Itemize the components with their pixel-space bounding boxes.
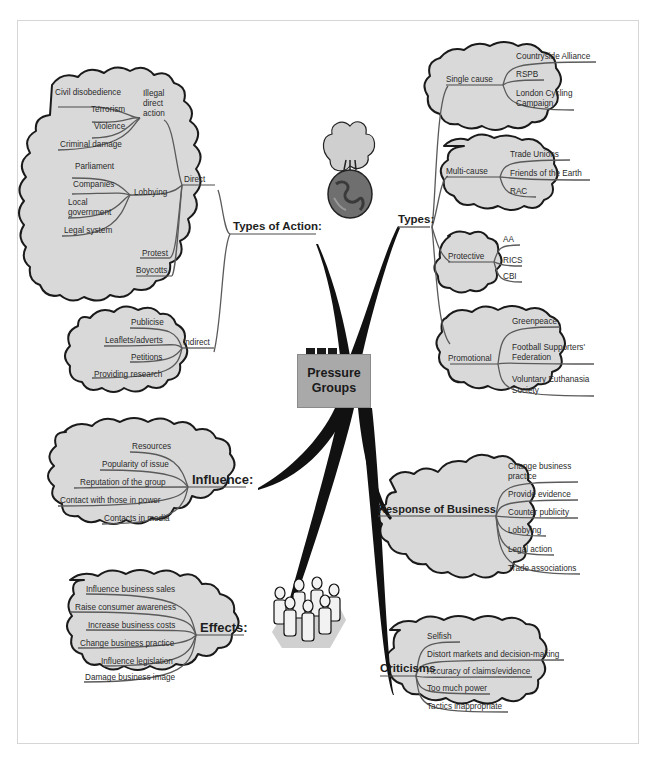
- leaf-contacts-in-media[interactable]: Contacts in media: [104, 514, 170, 524]
- leaf-terrorism[interactable]: Terrorism: [91, 105, 125, 115]
- leaf-football-supporters-federation-2[interactable]: Federation: [512, 353, 551, 363]
- leaf-companies[interactable]: Companies: [73, 180, 114, 190]
- leaf-trade-unions[interactable]: Trade Unions: [510, 150, 559, 160]
- node-single-cause[interactable]: Single cause: [446, 75, 493, 85]
- leaf-criminal-damage[interactable]: Criminal damage: [60, 140, 122, 150]
- leaf-resources[interactable]: Resources: [132, 442, 171, 452]
- node-protective[interactable]: Protective: [448, 252, 484, 262]
- central-topic-line1: Pressure: [307, 366, 361, 381]
- leaf-tactics-inappropriate[interactable]: Tactics inappropriate: [427, 702, 502, 712]
- node-indirect[interactable]: Indirect: [183, 338, 210, 348]
- leaf-civil-disobedience[interactable]: Civil disobedience: [55, 88, 121, 98]
- leaf-london-cycling-campaign-1[interactable]: London Cycling: [516, 89, 572, 99]
- node-multi-cause[interactable]: Multi-cause: [446, 167, 488, 177]
- leaf-influence-business-sales[interactable]: Influence business sales: [86, 585, 175, 595]
- burning-globe-icon: [323, 122, 374, 218]
- leaf-providing-research[interactable]: Providing research: [94, 370, 162, 380]
- branch-types: [350, 226, 400, 356]
- leaf-influence-legislation[interactable]: Influence legislation: [101, 657, 173, 667]
- leaf-countryside-alliance[interactable]: Countryside Alliance: [516, 52, 590, 62]
- leaf-parliament[interactable]: Parliament: [75, 162, 114, 172]
- leaf-reputation-of-the-group[interactable]: Reputation of the group: [80, 478, 166, 488]
- branch-types-of-action: [316, 244, 350, 356]
- crowd-of-people-icon: [272, 577, 346, 648]
- leaf-popularity-of-issue[interactable]: Popularity of issue: [102, 460, 169, 470]
- central-topic-node[interactable]: Pressure Groups: [297, 354, 371, 408]
- node-lobbying[interactable]: Lobbying: [134, 188, 167, 198]
- leaf-voluntary-euthanasia-society-1[interactable]: Voluntary Euthanasia: [512, 375, 589, 385]
- leaf-protest[interactable]: Protest: [142, 249, 168, 259]
- branch-label-response-of-business[interactable]: Response of Business: [378, 503, 496, 516]
- node-illegal-direct-action-3[interactable]: action: [143, 109, 165, 119]
- branch-label-types-of-action[interactable]: Types of Action:: [233, 220, 322, 233]
- leaf-legal-action[interactable]: Legal action: [508, 545, 552, 555]
- leaf-change-business-practice-resp-1[interactable]: Change business: [508, 462, 571, 472]
- branch-label-effects[interactable]: Effects:: [200, 621, 248, 634]
- leaf-rspb[interactable]: RSPB: [516, 70, 538, 80]
- leaf-publicise[interactable]: Publicise: [131, 318, 164, 328]
- node-illegal-direct-action-2[interactable]: direct: [143, 99, 163, 109]
- central-topic-line2: Groups: [312, 381, 356, 396]
- leaf-voluntary-euthanasia-society-2[interactable]: Society: [512, 386, 539, 396]
- node-illegal-direct-action-1[interactable]: Illegal: [143, 89, 164, 99]
- leaf-rac[interactable]: RAC: [510, 187, 527, 197]
- leaf-change-business-practice-resp-2[interactable]: practice: [508, 472, 537, 482]
- leaf-violence[interactable]: Violence: [94, 122, 125, 132]
- leaf-increase-business-costs[interactable]: Increase business costs: [88, 621, 175, 631]
- leaf-football-supporters-federation-1[interactable]: Football Supporters': [512, 343, 585, 353]
- leaf-london-cycling-campaign-2[interactable]: Campaign: [516, 99, 553, 109]
- leaf-lobbying-resp[interactable]: Lobbying: [508, 526, 541, 536]
- leaf-too-much-power[interactable]: Too much power: [427, 684, 487, 694]
- leaf-trade-associations[interactable]: Trade associations: [508, 564, 576, 574]
- leaf-provide-evidence[interactable]: Provide evidence: [508, 490, 571, 500]
- leaf-rics[interactable]: RICS: [503, 256, 523, 266]
- branch-label-influence[interactable]: Influence:: [192, 473, 253, 486]
- leaf-boycotts[interactable]: Boycotts: [136, 266, 167, 276]
- leaf-damage-business-image[interactable]: Damage business image: [85, 673, 175, 683]
- leaf-accuracy-of-claims[interactable]: Accuracy of claims/evidence: [427, 667, 530, 677]
- leaf-selfish[interactable]: Selfish: [427, 632, 452, 642]
- leaf-leaflets-adverts[interactable]: Leaflets/adverts: [105, 336, 163, 346]
- leaf-friends-of-the-earth[interactable]: Friends of the Earth: [510, 169, 582, 179]
- node-promotional[interactable]: Promotional: [448, 354, 492, 364]
- leaf-greenpeace[interactable]: Greenpeace: [512, 317, 557, 327]
- leaf-distort-markets[interactable]: Distort markets and decision-making: [427, 650, 559, 660]
- leaf-counter-publicity[interactable]: Counter publicity: [508, 508, 569, 518]
- leaf-legal-system[interactable]: Legal system: [64, 226, 112, 236]
- leaf-cbi[interactable]: CBI: [503, 272, 517, 282]
- leaf-raise-consumer-awareness[interactable]: Raise consumer awareness: [75, 603, 176, 613]
- branch-label-types[interactable]: Types:: [398, 213, 434, 226]
- leaf-aa[interactable]: AA: [503, 235, 514, 245]
- node-direct[interactable]: Direct: [184, 175, 205, 185]
- leaf-local-government-2[interactable]: government: [68, 208, 111, 218]
- leaf-change-business-practice[interactable]: Change business practice: [80, 639, 174, 649]
- leaf-petitions[interactable]: Petitions: [131, 353, 162, 363]
- leaf-local-government-1[interactable]: Local: [68, 198, 88, 208]
- leaf-contact-with-those-in-power[interactable]: Contact with those in power: [60, 496, 161, 506]
